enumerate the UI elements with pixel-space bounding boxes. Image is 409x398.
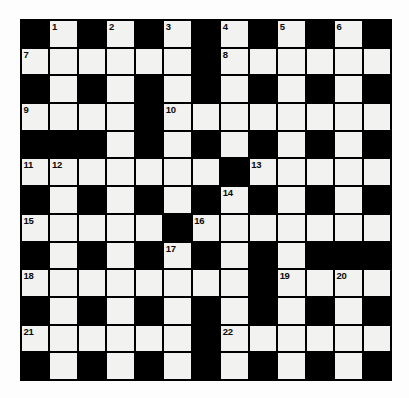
letter-cell[interactable] xyxy=(277,75,305,103)
letter-cell[interactable] xyxy=(135,325,163,353)
letter-cell[interactable] xyxy=(135,158,163,186)
letter-cell[interactable] xyxy=(106,48,134,76)
letter-cell[interactable]: 17 xyxy=(163,242,191,270)
letter-cell[interactable] xyxy=(49,103,77,131)
letter-cell[interactable] xyxy=(78,158,106,186)
letter-cell[interactable]: 14 xyxy=(220,186,248,214)
letter-cell[interactable]: 2 xyxy=(106,20,134,48)
letter-cell[interactable] xyxy=(277,158,305,186)
letter-cell[interactable] xyxy=(78,48,106,76)
letter-cell[interactable] xyxy=(78,103,106,131)
letter-cell[interactable] xyxy=(163,75,191,103)
letter-cell[interactable] xyxy=(277,103,305,131)
letter-cell[interactable] xyxy=(163,186,191,214)
letter-cell[interactable] xyxy=(249,214,277,242)
letter-cell[interactable] xyxy=(306,325,334,353)
letter-cell[interactable] xyxy=(106,325,134,353)
letter-cell[interactable]: 6 xyxy=(334,20,362,48)
letter-cell[interactable] xyxy=(135,269,163,297)
letter-cell[interactable] xyxy=(306,269,334,297)
letter-cell[interactable] xyxy=(220,269,248,297)
letter-cell[interactable] xyxy=(106,214,134,242)
letter-cell[interactable] xyxy=(334,297,362,325)
letter-cell[interactable] xyxy=(49,214,77,242)
letter-cell[interactable]: 15 xyxy=(21,214,49,242)
letter-cell[interactable]: 7 xyxy=(21,48,49,76)
letter-cell[interactable] xyxy=(135,214,163,242)
letter-cell[interactable]: 11 xyxy=(21,158,49,186)
letter-cell[interactable] xyxy=(277,214,305,242)
letter-cell[interactable]: 16 xyxy=(192,214,220,242)
letter-cell[interactable] xyxy=(220,75,248,103)
letter-cell[interactable] xyxy=(277,186,305,214)
letter-cell[interactable] xyxy=(306,103,334,131)
crossword-grid[interactable]: 12345678910111213141516171819202122 xyxy=(21,20,391,380)
letter-cell[interactable] xyxy=(49,186,77,214)
letter-cell[interactable] xyxy=(163,131,191,159)
letter-cell[interactable] xyxy=(78,325,106,353)
letter-cell[interactable] xyxy=(106,103,134,131)
letter-cell[interactable] xyxy=(249,48,277,76)
letter-cell[interactable] xyxy=(363,103,391,131)
letter-cell[interactable]: 12 xyxy=(49,158,77,186)
letter-cell[interactable] xyxy=(163,325,191,353)
letter-cell[interactable] xyxy=(192,103,220,131)
letter-cell[interactable] xyxy=(334,186,362,214)
letter-cell[interactable] xyxy=(249,103,277,131)
letter-cell[interactable] xyxy=(49,48,77,76)
letter-cell[interactable] xyxy=(106,352,134,380)
letter-cell[interactable] xyxy=(306,158,334,186)
letter-cell[interactable]: 20 xyxy=(334,269,362,297)
letter-cell[interactable] xyxy=(277,242,305,270)
letter-cell[interactable] xyxy=(49,269,77,297)
letter-cell[interactable] xyxy=(163,297,191,325)
letter-cell[interactable] xyxy=(220,352,248,380)
letter-cell[interactable]: 13 xyxy=(249,158,277,186)
letter-cell[interactable] xyxy=(49,297,77,325)
letter-cell[interactable] xyxy=(220,214,248,242)
letter-cell[interactable] xyxy=(277,352,305,380)
letter-cell[interactable]: 22 xyxy=(220,325,248,353)
letter-cell[interactable] xyxy=(192,269,220,297)
letter-cell[interactable]: 4 xyxy=(220,20,248,48)
letter-cell[interactable] xyxy=(334,75,362,103)
letter-cell[interactable] xyxy=(49,242,77,270)
letter-cell[interactable] xyxy=(363,325,391,353)
letter-cell[interactable]: 1 xyxy=(49,20,77,48)
letter-cell[interactable] xyxy=(334,214,362,242)
letter-cell[interactable]: 5 xyxy=(277,20,305,48)
letter-cell[interactable] xyxy=(78,269,106,297)
letter-cell[interactable] xyxy=(163,269,191,297)
letter-cell[interactable] xyxy=(249,325,277,353)
letter-cell[interactable]: 8 xyxy=(220,48,248,76)
letter-cell[interactable] xyxy=(363,48,391,76)
letter-cell[interactable] xyxy=(49,352,77,380)
letter-cell[interactable] xyxy=(363,269,391,297)
letter-cell[interactable] xyxy=(334,103,362,131)
letter-cell[interactable]: 19 xyxy=(277,269,305,297)
letter-cell[interactable] xyxy=(277,325,305,353)
letter-cell[interactable]: 10 xyxy=(163,103,191,131)
letter-cell[interactable] xyxy=(49,325,77,353)
letter-cell[interactable] xyxy=(334,352,362,380)
letter-cell[interactable] xyxy=(106,242,134,270)
letter-cell[interactable]: 18 xyxy=(21,269,49,297)
letter-cell[interactable] xyxy=(220,297,248,325)
letter-cell[interactable] xyxy=(220,131,248,159)
letter-cell[interactable] xyxy=(106,131,134,159)
letter-cell[interactable] xyxy=(106,158,134,186)
letter-cell[interactable]: 21 xyxy=(21,325,49,353)
letter-cell[interactable] xyxy=(277,131,305,159)
letter-cell[interactable] xyxy=(334,325,362,353)
letter-cell[interactable] xyxy=(106,186,134,214)
letter-cell[interactable] xyxy=(277,297,305,325)
letter-cell[interactable] xyxy=(135,48,163,76)
letter-cell[interactable] xyxy=(334,131,362,159)
letter-cell[interactable] xyxy=(363,158,391,186)
letter-cell[interactable] xyxy=(163,158,191,186)
letter-cell[interactable] xyxy=(192,158,220,186)
letter-cell[interactable] xyxy=(78,214,106,242)
letter-cell[interactable] xyxy=(163,352,191,380)
letter-cell[interactable] xyxy=(363,214,391,242)
letter-cell[interactable] xyxy=(277,48,305,76)
